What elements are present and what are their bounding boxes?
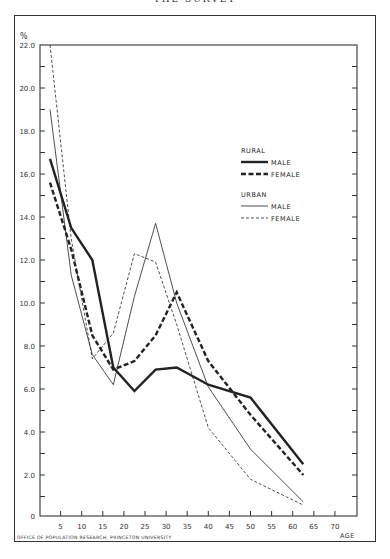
x-tick-label: 35 [183, 523, 192, 531]
x-tick-label: 40 [204, 523, 213, 531]
x-tick-label: 55 [267, 523, 276, 531]
y-tick-label: 22.0 [19, 42, 35, 50]
y-tick-label: 20.0 [19, 85, 35, 93]
y-tick-label: 18.0 [19, 128, 35, 136]
series-line-rural-male [50, 159, 303, 464]
y-tick-label: 10.0 [19, 300, 35, 308]
line-chart: 02.04.06.08.010.012.014.016.018.020.022.… [0, 0, 390, 559]
legend-group-urban: URBAN [241, 191, 267, 199]
x-tick-label: 45 [225, 523, 234, 531]
legend-label: MALE [271, 203, 291, 211]
series-line-urban-female [50, 45, 303, 505]
y-tick-label: 2.0 [24, 472, 35, 480]
x-tick-label: 15 [98, 523, 107, 531]
x-tick-label: 70 [330, 523, 339, 531]
y-tick-label: 14.0 [19, 214, 35, 222]
plot-area [40, 45, 357, 516]
y-tick-label: 6.0 [24, 386, 35, 394]
legend-label: FEMALE [271, 215, 300, 223]
x-tick-label: 20 [119, 523, 128, 531]
y-axis-label: % [20, 32, 28, 41]
x-axis-label: AGE [340, 532, 355, 540]
x-tick-label: 65 [309, 523, 318, 531]
legend-label: FEMALE [271, 171, 300, 179]
y-tick-label: 12.0 [19, 257, 35, 265]
legend-label: MALE [271, 159, 291, 167]
x-tick-label: 50 [246, 523, 255, 531]
legend-group-rural: RURAL [241, 147, 266, 155]
source-credit: OFFICE OF POPULATION RESEARCH, PRINCETON… [17, 535, 172, 540]
y-tick-label: 4.0 [24, 429, 35, 437]
x-tick-label: 25 [141, 523, 150, 531]
y-tick-label: 8.0 [24, 343, 35, 351]
series-line-urban-male [50, 110, 303, 502]
series-line-rural-female [50, 183, 303, 475]
x-tick-label: 60 [288, 523, 297, 531]
x-tick-label: 5 [58, 523, 62, 531]
x-tick-label: 30 [162, 523, 171, 531]
y-tick-label: 16.0 [19, 171, 35, 179]
x-tick-label: 10 [77, 523, 86, 531]
y-tick-label: 0 [31, 513, 35, 521]
